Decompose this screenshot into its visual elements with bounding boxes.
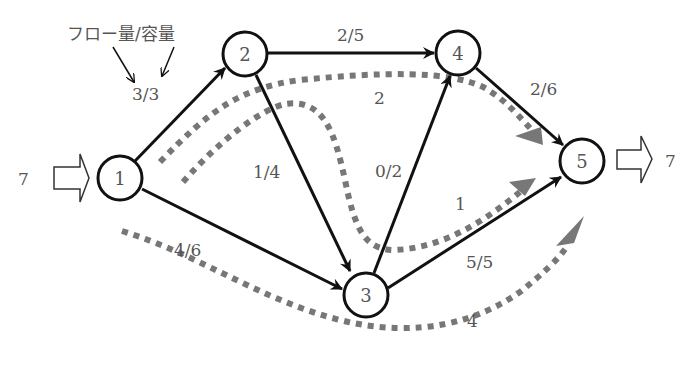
- legend-pointer-capacity: [162, 47, 174, 76]
- node-label: 4: [452, 43, 463, 64]
- node-4: 4: [436, 31, 480, 75]
- diagram-svg: 1 2 3 4 5 フロー量/容量 3/3 2/5 2/6 1/4 0/2 4/…: [0, 0, 693, 372]
- node-label: 1: [114, 168, 125, 189]
- inflow-arrow-icon: [54, 154, 89, 202]
- flow-amount-path-b: 1: [455, 194, 466, 214]
- edge-label-1-3: 4/6: [174, 240, 201, 260]
- edge-1-3: [142, 189, 342, 289]
- edge-label-1-2: 3/3: [132, 84, 159, 104]
- inflow-value: 7: [18, 169, 29, 189]
- node-label: 5: [576, 151, 587, 172]
- node-label: 2: [239, 44, 250, 65]
- edge-label-2-4: 2/5: [337, 25, 364, 45]
- outflow-arrow-icon: [617, 136, 652, 183]
- edge-1-2: [135, 68, 225, 161]
- legend-pointer-flow: [113, 47, 134, 82]
- flow-path-1-2-4-5: [160, 74, 530, 162]
- flow-arrowhead-path-a: [515, 127, 543, 145]
- edge-label-2-3: 1/4: [253, 162, 280, 182]
- flow-arrowhead-path-b: [509, 178, 536, 196]
- flow-path-1-2-3-5: [183, 103, 520, 250]
- edge-label-4-5: 2/6: [530, 79, 557, 99]
- edge-label-3-5: 5/5: [466, 252, 493, 272]
- outflow-value: 7: [665, 151, 676, 171]
- node-5: 5: [560, 139, 604, 183]
- node-label: 3: [360, 285, 371, 306]
- flow-arrowhead-path-c: [556, 216, 584, 246]
- edge-label-3-4: 0/2: [375, 161, 402, 181]
- flow-amount-path-a: 2: [374, 88, 385, 108]
- flow-amount-path-c: 4: [467, 311, 478, 331]
- node-3: 3: [344, 273, 388, 317]
- node-2: 2: [223, 32, 267, 76]
- max-flow-diagram: 1 2 3 4 5 フロー量/容量 3/3 2/5 2/6 1/4 0/2 4/…: [0, 0, 693, 372]
- legend-pointers: [113, 47, 174, 82]
- node-1: 1: [98, 156, 142, 200]
- legend-title: フロー量/容量: [67, 24, 175, 44]
